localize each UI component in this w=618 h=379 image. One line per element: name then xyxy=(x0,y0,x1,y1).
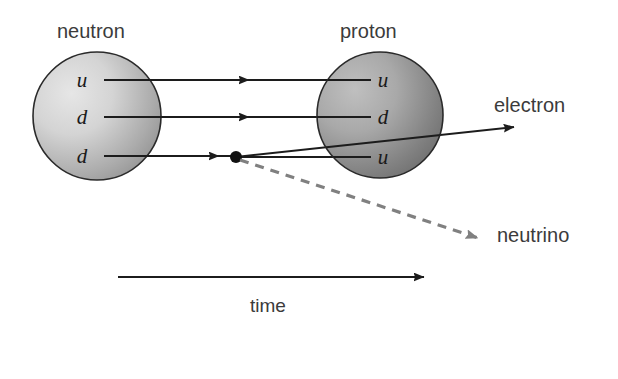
proton-label: proton xyxy=(340,20,397,42)
neutron-quark-d2: d xyxy=(77,144,88,168)
neutron-label: neutron xyxy=(57,20,125,42)
proton-quark-d: d xyxy=(378,105,389,129)
beta-decay-diagram: neutron u d d proton u d u xyxy=(0,0,618,379)
neutrino-label: neutrino xyxy=(497,224,569,246)
electron-label: electron xyxy=(494,94,565,116)
proton-quark-u2: u xyxy=(378,145,389,169)
neutron-quark-u: u xyxy=(77,68,88,92)
proton-quark-u1: u xyxy=(378,68,389,92)
neutron-quark-d1: d xyxy=(77,105,88,129)
diagram-canvas: neutron u d d proton u d u xyxy=(0,0,618,379)
time-axis-label: time xyxy=(250,295,286,316)
